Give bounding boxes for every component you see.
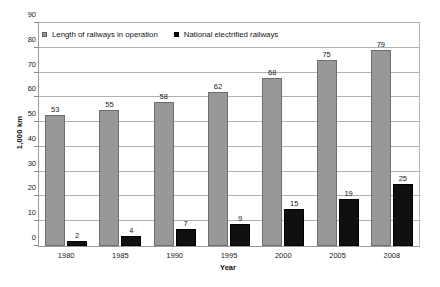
legend-entry-0: Length of railways in operation (42, 30, 158, 39)
gridline (39, 171, 419, 172)
legend-label: National electrified railways (184, 30, 278, 39)
bar-value-label: 15 (274, 200, 314, 208)
bar-1995-series-0 (208, 92, 228, 246)
legend-swatch-black-icon (174, 32, 179, 37)
bar-value-label: 53 (35, 106, 75, 114)
bar-value-label: 2 (57, 232, 97, 240)
bar-2008-series-1 (393, 184, 413, 246)
bar-value-label: 55 (89, 101, 129, 109)
x-axis-tick-label: 2008 (362, 251, 422, 260)
bar-value-label: 19 (329, 190, 369, 198)
bar-2008-series-0 (371, 50, 391, 246)
y-axis-tick-label: 70 (4, 61, 36, 69)
bar-value-label: 4 (111, 227, 151, 235)
gridline (39, 121, 419, 122)
bar-value-label: 75 (307, 51, 347, 59)
y-axis-tick-label: 80 (4, 36, 36, 44)
bar-value-label: 7 (166, 220, 206, 228)
y-axis-title: 1,000 km (15, 103, 24, 163)
gridline (39, 22, 419, 23)
gridline (39, 72, 419, 73)
bar-2005-series-1 (339, 199, 359, 246)
x-axis-tick-label: 2005 (308, 251, 368, 260)
x-axis-tick-label: 1985 (90, 251, 150, 260)
bar-2005-series-0 (317, 60, 337, 246)
x-axis-tick-label: 2000 (253, 251, 313, 260)
bar-value-label: 58 (144, 93, 184, 101)
legend-swatch-gray-icon (42, 32, 47, 37)
x-axis-tick-label: 1980 (36, 251, 96, 260)
bar-value-label: 68 (252, 69, 292, 77)
x-axis-title: Year (38, 263, 418, 272)
bar-1990-series-1 (176, 229, 196, 246)
bar-2000-series-1 (284, 209, 304, 246)
y-axis-tick-label: 0 (4, 234, 36, 242)
plot-area: 532554587629681575197925 (38, 22, 420, 247)
gridline (39, 96, 419, 97)
y-axis-tick-label: 20 (4, 184, 36, 192)
bar-1985-series-1 (121, 236, 141, 246)
bar-1980-series-0 (45, 115, 65, 246)
chart-legend: Length of railways in operationNational … (42, 28, 278, 40)
x-axis-tick-label: 1990 (145, 251, 205, 260)
bar-1985-series-0 (99, 110, 119, 246)
legend-entry-1: National electrified railways (174, 30, 278, 39)
bar-chart: 0102030405060708090 1,000 km 53255458762… (0, 0, 440, 287)
legend-label: Length of railways in operation (52, 30, 158, 39)
y-axis-tick-label: 10 (4, 209, 36, 217)
bar-1980-series-1 (67, 241, 87, 246)
gridline (39, 146, 419, 147)
y-axis-tick-label: 90 (4, 11, 36, 19)
y-axis-tick-label: 60 (4, 85, 36, 93)
bar-1995-series-1 (230, 224, 250, 246)
bar-value-label: 79 (361, 41, 401, 49)
x-axis-tick-label: 1995 (199, 251, 259, 260)
bar-2000-series-0 (262, 78, 282, 246)
bar-value-label: 25 (383, 175, 423, 183)
bar-value-label: 62 (198, 83, 238, 91)
bar-value-label: 9 (220, 215, 260, 223)
